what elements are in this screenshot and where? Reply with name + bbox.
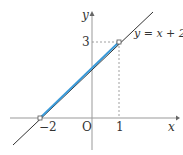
y-tick-3: 3 [82, 35, 90, 49]
y-axis-label: y [81, 8, 89, 22]
x-axis-arrow-icon [176, 116, 180, 121]
equation-label: y = x + 2 [133, 27, 183, 40]
highlighted-segment [40, 42, 119, 118]
x-axis-label: x [168, 120, 175, 134]
y-axis-arrow-icon [90, 11, 95, 16]
x-tick-1: 1 [116, 120, 124, 134]
graph: y x O −2 1 3 y = x + 2 [0, 0, 183, 155]
open-point-end [117, 40, 121, 44]
origin-label: O [82, 120, 92, 134]
x-tick-neg2: −2 [39, 120, 57, 134]
